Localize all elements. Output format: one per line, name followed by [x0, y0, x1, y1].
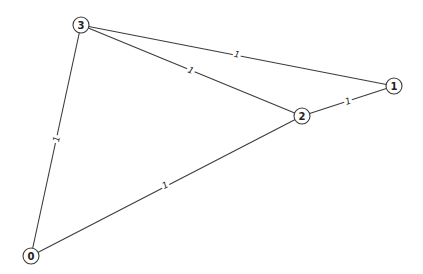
node-label: 1 — [391, 81, 398, 92]
graph-diagram: 11111 0123 — [0, 0, 423, 274]
edges-layer — [31, 25, 394, 256]
node-3: 3 — [73, 17, 89, 33]
graph-canvas: 11111 0123 — [0, 0, 423, 274]
edge-label-3-2: 1 — [185, 64, 196, 77]
edge-label-0-2: 1 — [159, 179, 171, 192]
node-0: 0 — [23, 248, 39, 264]
node-label: 3 — [78, 20, 85, 31]
node-label: 0 — [28, 251, 35, 262]
edge-weight-text: 1 — [344, 96, 353, 107]
nodes-layer: 0123 — [23, 17, 402, 264]
edge-label-3-1: 1 — [232, 48, 242, 60]
edge-label-2-1: 1 — [343, 95, 354, 107]
node-1: 1 — [386, 78, 402, 94]
node-label: 2 — [299, 111, 306, 122]
node-2: 2 — [294, 108, 310, 124]
edge-label-3-0: 1 — [50, 134, 62, 144]
